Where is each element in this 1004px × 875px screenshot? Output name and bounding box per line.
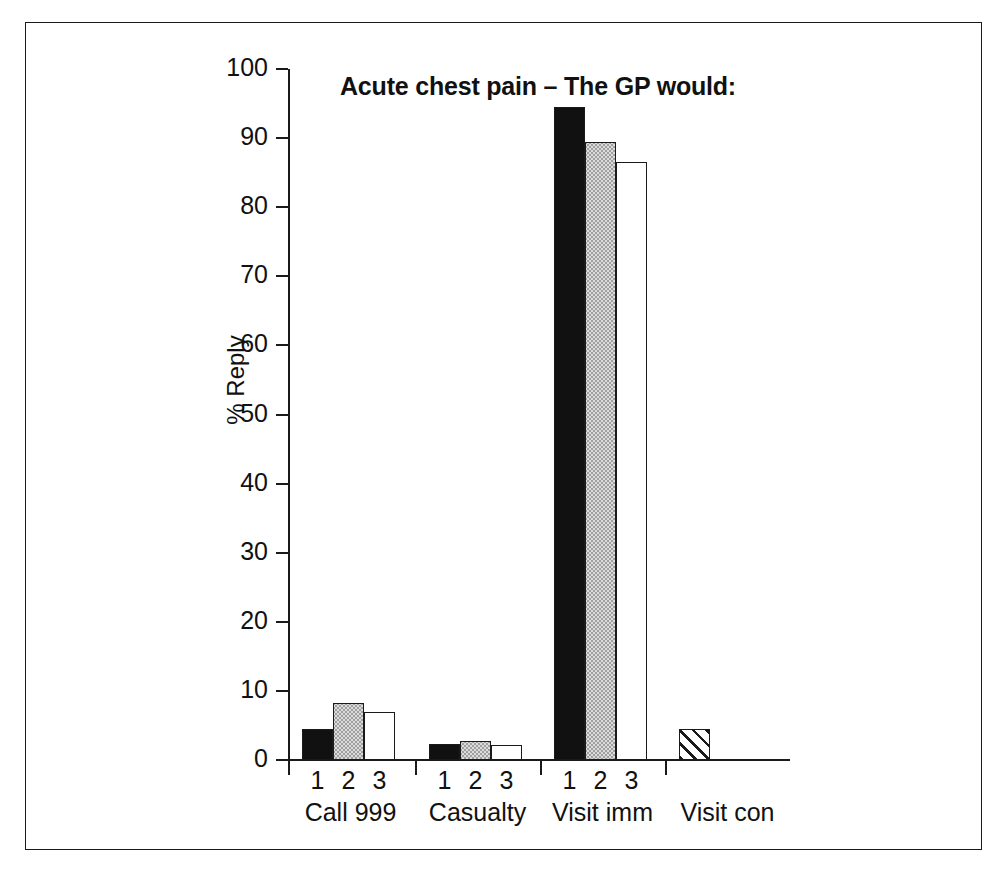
y-axis-tick-label-text: 90 xyxy=(222,124,268,149)
y-axis-line xyxy=(288,69,290,761)
bar-chart-plot: Acute chest pain – The GP would: % Reply… xyxy=(0,0,1004,875)
bar-series-label: 3 xyxy=(612,768,652,793)
y-axis-tick-label: 70 xyxy=(222,262,268,288)
y-axis-tick-label-text: 60 xyxy=(222,331,268,356)
bar xyxy=(679,729,710,760)
y-axis-tick-mark xyxy=(276,206,288,208)
x-axis-group-separator-tick xyxy=(288,761,290,775)
y-axis-tick-label: 90 xyxy=(222,124,268,150)
y-axis-tick-mark xyxy=(276,137,288,139)
bar xyxy=(491,745,522,760)
bar xyxy=(616,162,647,760)
y-axis-tick-label-text: 80 xyxy=(222,193,268,218)
x-axis-category-label: Visit con xyxy=(633,800,823,825)
y-axis-tick-label-text: 100 xyxy=(222,55,268,80)
y-axis-tick-label-text: 40 xyxy=(222,470,268,495)
y-axis-tick-label-text: 70 xyxy=(222,262,268,287)
y-axis-tick-label: 0 xyxy=(222,746,268,772)
y-axis-tick-label: 20 xyxy=(222,608,268,634)
bar xyxy=(460,741,491,760)
y-axis-tick-label-text: 20 xyxy=(222,608,268,633)
y-axis-tick-mark xyxy=(276,68,288,70)
y-axis-tick-label: 60 xyxy=(222,331,268,357)
x-axis-group-separator-tick xyxy=(665,761,667,775)
y-axis-tick-label: 50 xyxy=(222,401,268,427)
y-axis-tick-label: 100 xyxy=(222,55,268,81)
y-axis-tick-label-text: 10 xyxy=(222,677,268,702)
bar-series-label: 3 xyxy=(487,768,527,793)
x-axis-group-separator-tick xyxy=(415,761,417,775)
y-axis-tick-label-text: 0 xyxy=(222,746,268,771)
bar xyxy=(333,703,364,760)
y-axis-tick-mark xyxy=(276,414,288,416)
y-axis-tick-mark xyxy=(276,275,288,277)
bar-series-label: 3 xyxy=(360,768,400,793)
y-axis-tick-label: 80 xyxy=(222,193,268,219)
y-axis-tick-mark xyxy=(276,483,288,485)
y-axis-tick-mark xyxy=(276,621,288,623)
chart-title: Acute chest pain – The GP would: xyxy=(340,72,736,101)
y-axis-tick-label-text: 30 xyxy=(222,539,268,564)
y-axis-tick-mark xyxy=(276,344,288,346)
bar xyxy=(302,729,333,760)
bar xyxy=(429,744,460,760)
y-axis-tick-label: 40 xyxy=(222,470,268,496)
bar xyxy=(585,142,616,760)
y-axis-tick-label: 30 xyxy=(222,539,268,565)
figure-canvas: Acute chest pain – The GP would: % Reply… xyxy=(0,0,1004,875)
y-axis-tick-label-text: 50 xyxy=(222,401,268,426)
y-axis-tick-label: 10 xyxy=(222,677,268,703)
x-axis-group-separator-tick xyxy=(540,761,542,775)
bar xyxy=(364,712,395,760)
y-axis-tick-mark xyxy=(276,690,288,692)
bar xyxy=(554,107,585,760)
y-axis-tick-mark xyxy=(276,759,288,761)
y-axis-tick-mark xyxy=(276,552,288,554)
